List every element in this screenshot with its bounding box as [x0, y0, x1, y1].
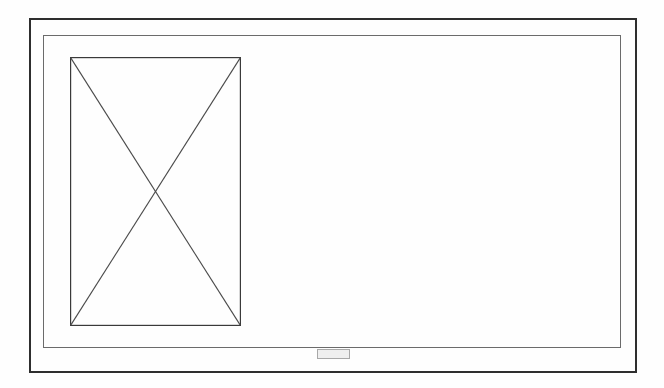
drawing-sheet — [0, 0, 664, 388]
bottom-stamp-chip — [317, 349, 350, 359]
image-placeholder-box — [70, 57, 241, 326]
image-placeholder-icon — [70, 57, 241, 326]
